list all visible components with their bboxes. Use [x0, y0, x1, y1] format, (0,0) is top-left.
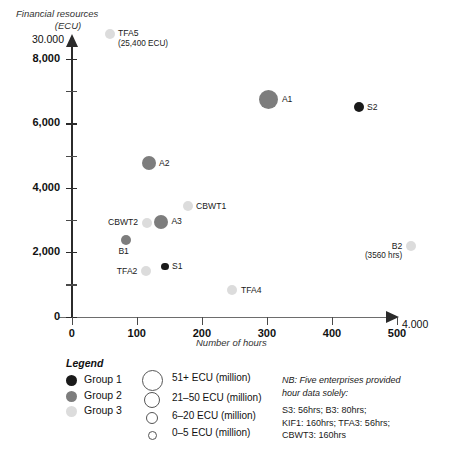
note-line-1: NB: Five enterprises provided: [282, 374, 454, 387]
data-point-sublabel-b2: (3560 hrs): [365, 251, 402, 260]
legend-title: Legend: [66, 357, 103, 369]
note-line-3: S3: 56hrs; B3: 80hrs;: [282, 404, 454, 417]
x-axis-tick: [202, 317, 203, 325]
data-point-s2[interactable]: [354, 102, 364, 112]
legend-group-label: Group 2: [84, 389, 122, 401]
legend-group-swatch-icon: [66, 406, 77, 417]
note-line-2: hour data solely:: [282, 387, 454, 400]
legend-group-label: Group 1: [84, 373, 122, 385]
legend-group-swatch-icon: [66, 375, 77, 386]
x-axis-tick-label: 500: [377, 327, 417, 339]
x-axis-tick-label: 200: [182, 327, 222, 339]
data-point-label-s1: S1: [172, 261, 183, 271]
x-axis-line: [59, 317, 389, 318]
legend-size-label: 0–5 ECU (million): [172, 427, 250, 438]
y-axis-tick: [66, 220, 77, 221]
y-axis-tick-label: 8,000: [8, 52, 60, 64]
y-axis-title-line2: (ECU): [16, 20, 120, 32]
y-axis-title-line1: Financial resources: [16, 8, 98, 19]
y-axis-tick: [66, 156, 77, 157]
y-axis-tick-label: 4,000: [8, 181, 60, 193]
legend-group-swatch-icon: [66, 391, 77, 402]
data-point-label-cbwt1: CBWT1: [196, 201, 226, 211]
y-axis-tick: [66, 59, 77, 60]
data-point-a3[interactable]: [154, 215, 168, 229]
legend-size-label: 6–20 ECU (million): [172, 410, 256, 421]
legend-size-circle-icon: [142, 370, 163, 391]
data-point-b1[interactable]: [121, 235, 131, 245]
x-axis-tick: [72, 317, 73, 325]
data-point-a1[interactable]: [259, 90, 278, 109]
y-axis-tick: [66, 91, 77, 92]
data-point-label-tfa5: TFA5: [118, 28, 139, 38]
y-axis-tick: [66, 284, 77, 285]
legend-size-circle-icon: [144, 392, 160, 408]
x-axis-tick: [137, 317, 138, 325]
x-axis-tick-label: 400: [312, 327, 352, 339]
note-line-5: CBWT3: 160hrs: [282, 429, 454, 442]
data-point-b2[interactable]: [406, 241, 416, 251]
legend-size-circle-icon: [146, 412, 158, 424]
legend-size-circle-icon: [148, 431, 157, 440]
legend-group-label: Group 3: [84, 404, 122, 416]
data-point-label-a1: A1: [282, 94, 293, 104]
data-point-tfa4[interactable]: [227, 285, 237, 295]
x-axis-tick-label: 0: [52, 327, 92, 339]
y-axis-tick: [66, 123, 77, 124]
y-axis-tick-label: 2,000: [8, 245, 60, 257]
x-axis-tick: [332, 317, 333, 325]
y-axis-break-label: 30.000: [8, 33, 64, 45]
x-axis-tick-label: 100: [117, 327, 157, 339]
data-point-label-b1: B1: [118, 246, 129, 256]
data-point-label-b2: B2: [392, 241, 403, 251]
note-line-4: KIF1: 160hrs; TFA3: 56hrs;: [282, 417, 454, 430]
x-axis-tick: [267, 317, 268, 325]
y-axis-tick: [66, 252, 77, 253]
data-point-label-tfa2: TFA2: [117, 266, 138, 276]
x-axis-tick-label: 300: [247, 327, 287, 339]
data-point-label-a2: A2: [159, 158, 170, 168]
data-point-label-a3: A3: [171, 216, 182, 226]
y-axis-arrow-icon: [66, 34, 78, 47]
data-point-sublabel-tfa5: (25,400 ECU): [118, 39, 168, 48]
legend-size-label: 51+ ECU (million): [172, 372, 251, 383]
data-point-s1[interactable]: [161, 263, 169, 271]
note-block: NB: Five enterprises provided hour data …: [282, 374, 454, 442]
y-axis-tick-label: 6,000: [8, 116, 60, 128]
data-point-cbwt1[interactable]: [183, 201, 193, 211]
x-axis-tick: [397, 317, 398, 325]
data-point-label-cbwt2: CBWT2: [108, 217, 138, 227]
data-point-tfa5[interactable]: [105, 29, 115, 39]
y-axis-line: [71, 44, 73, 318]
data-point-tfa2[interactable]: [141, 266, 151, 276]
data-point-cbwt2[interactable]: [142, 218, 152, 228]
y-axis-break-label-wrap: 30.000: [0, 33, 56, 45]
data-point-a2[interactable]: [142, 156, 156, 170]
data-point-label-tfa4: TFA4: [241, 285, 262, 295]
legend-size-label: 21–50 ECU (million): [172, 392, 261, 403]
y-axis-tick-label: 0: [8, 310, 60, 322]
y-axis-tick: [66, 188, 77, 189]
data-point-label-s2: S2: [367, 102, 378, 112]
